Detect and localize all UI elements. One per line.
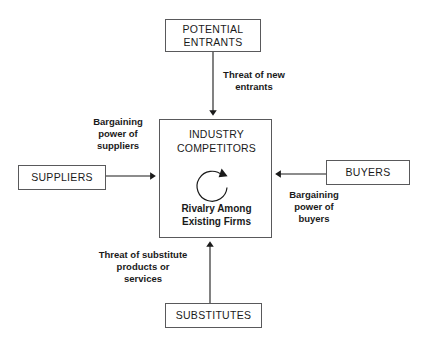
node-industry-competitors[interactable]: INDUSTRY COMPETITORS Rivalry Among Exist… bbox=[159, 119, 272, 238]
node-potential-entrants-label: POTENTIAL ENTRANTS bbox=[182, 23, 243, 49]
edge-label-bargaining-power-of-buyers: Bargaining power of buyers bbox=[273, 189, 355, 225]
node-suppliers-label: SUPPLIERS bbox=[31, 171, 93, 184]
node-potential-entrants[interactable]: POTENTIAL ENTRANTS bbox=[165, 19, 261, 52]
node-buyers[interactable]: BUYERS bbox=[326, 160, 410, 185]
rivalry-among-existing-firms-label: Rivalry Among Existing Firms bbox=[160, 203, 273, 228]
porters-five-forces-diagram: POTENTIAL ENTRANTS SUPPLIERS BUYERS SUBS… bbox=[0, 0, 421, 341]
node-buyers-label: BUYERS bbox=[346, 166, 391, 179]
circular-arrow-icon bbox=[193, 167, 239, 207]
node-suppliers[interactable]: SUPPLIERS bbox=[18, 165, 106, 190]
edge-label-threat-of-substitute-products: Threat of substitute products or service… bbox=[84, 249, 202, 285]
edge-label-threat-of-new-entrants: Threat of new entrants bbox=[206, 69, 302, 93]
node-industry-competitors-title: INDUSTRY COMPETITORS bbox=[160, 128, 273, 155]
edge-label-bargaining-power-of-suppliers: Bargaining power of suppliers bbox=[79, 116, 157, 152]
node-substitutes[interactable]: SUBSTITUTES bbox=[165, 303, 262, 328]
node-substitutes-label: SUBSTITUTES bbox=[176, 309, 252, 322]
